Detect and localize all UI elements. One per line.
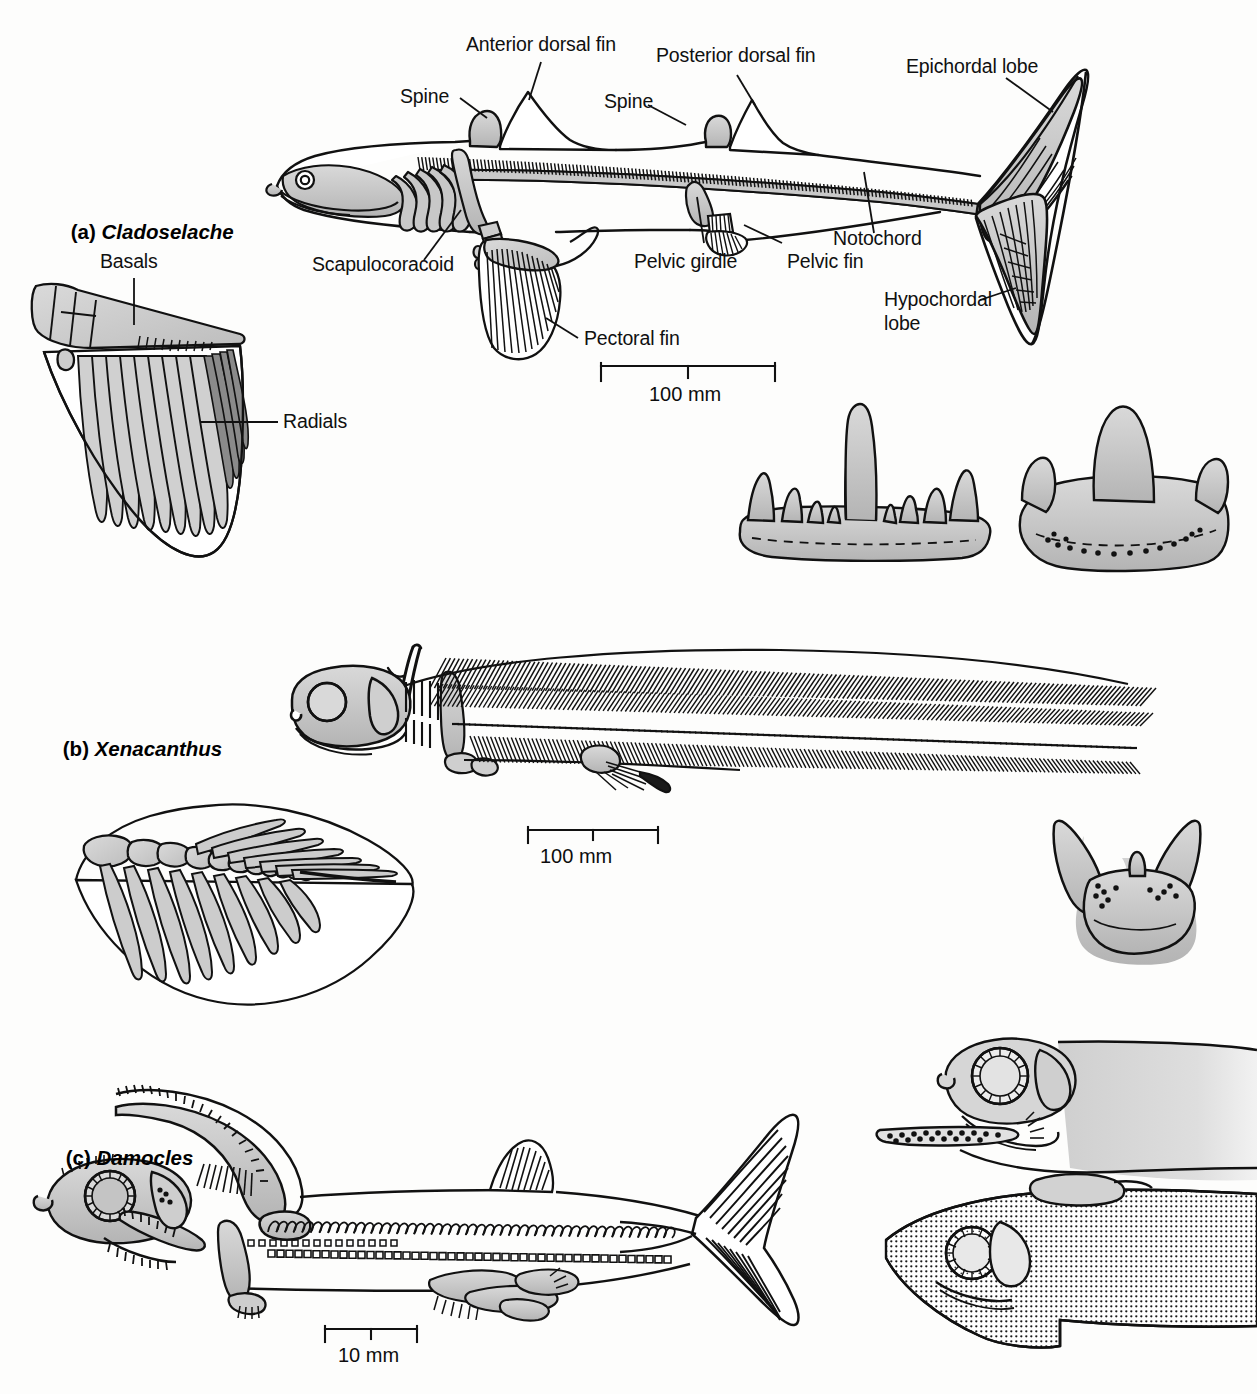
xenacanthus-pelvic-fin xyxy=(581,746,670,793)
panel-title-a: (a) Cladoselache xyxy=(48,196,234,268)
damocles-axial-skeleton xyxy=(248,1221,675,1263)
damocles-head-detail-female xyxy=(886,1174,1257,1348)
panel-genus-b: Xenacanthus xyxy=(95,737,223,760)
damocles-pectoral-girdle xyxy=(218,1221,265,1319)
label-anterior-dorsal-fin: Anterior dorsal fin xyxy=(466,33,616,56)
damocles-head-detail-male xyxy=(877,1039,1257,1181)
cladoselache-head xyxy=(266,165,471,231)
label-hypochordal-lobe-line2: lobe xyxy=(884,312,920,335)
panel-genus-c: Damocles xyxy=(97,1146,194,1169)
panel-marker-a: (a) xyxy=(71,220,102,243)
label-spine-posterior: Spine xyxy=(604,90,653,113)
label-posterior-dorsal-fin: Posterior dorsal fin xyxy=(656,44,816,67)
damocles-caudal-fin xyxy=(620,1115,799,1325)
label-notochord: Notochord xyxy=(833,227,922,250)
figure-root: Anterior dorsal fin Spine Posterior dors… xyxy=(0,0,1257,1394)
cladoselache-pectoral-fin xyxy=(479,227,598,359)
panel-title-b: (b) Xenacanthus xyxy=(40,713,222,785)
panel-marker-b: (b) xyxy=(63,737,95,760)
label-scapulocoracoid: Scapulocoracoid xyxy=(312,253,454,276)
panel-genus-a: Cladoselache xyxy=(102,220,234,243)
cladodont-tooth-lateral xyxy=(740,404,991,561)
xenacanthus-skull xyxy=(291,666,410,755)
damocles-pelvic-claspers xyxy=(429,1268,578,1321)
label-epichordal-lobe: Epichordal lobe xyxy=(906,55,1038,78)
label-hypochordal-lobe-line1: Hypochordal xyxy=(884,288,992,311)
xenacanth-tooth xyxy=(1054,821,1201,965)
panel-marker-c: (c) xyxy=(66,1146,97,1169)
xenacanthus-pectoral-fin-detail xyxy=(76,804,413,1004)
label-pectoral-fin: Pectoral fin xyxy=(584,327,680,350)
label-pelvic-girdle: Pelvic girdle xyxy=(634,250,737,273)
scale-label-b: 100 mm xyxy=(540,845,612,868)
cladoselache-body xyxy=(277,92,980,240)
xenacanthus-axial-skeleton xyxy=(430,658,1156,774)
cladoselache-caudal-fin xyxy=(976,70,1088,344)
cladoselache-pelvic xyxy=(686,182,747,255)
label-spine-anterior: Spine xyxy=(400,85,449,108)
cladodont-tooth-anterior xyxy=(1020,407,1229,571)
scale-label-a: 100 mm xyxy=(649,383,721,406)
panel-title-c: (c) Damocles xyxy=(43,1122,193,1194)
cladoselache-pectoral-fin-detail xyxy=(32,284,249,557)
label-radials: Radials xyxy=(283,410,347,433)
damocles-dorsal-fin xyxy=(490,1140,553,1192)
scale-label-c: 10 mm xyxy=(338,1344,399,1367)
label-pelvic-fin: Pelvic fin xyxy=(787,250,864,273)
